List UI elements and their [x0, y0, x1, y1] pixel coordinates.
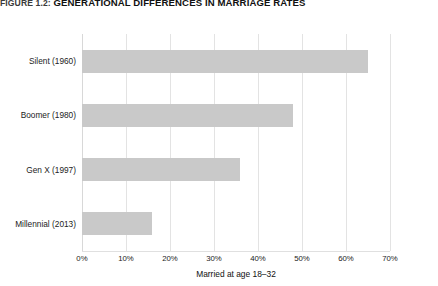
bar-gen-x-1997 — [82, 158, 240, 181]
bar-silent-1960 — [82, 50, 368, 73]
bar-millennial-2013 — [82, 212, 152, 235]
category-label-silent-1960: Silent (1960) — [29, 56, 76, 66]
gridline-70pct — [390, 34, 391, 251]
bar-boomer-1980 — [82, 104, 293, 127]
category-label-gen-x-1997: Gen X (1997) — [26, 165, 76, 175]
bar-chart: Silent (1960)Boomer (1980)Gen X (1997)Mi… — [0, 8, 438, 286]
category-label-boomer-1980: Boomer (1980) — [21, 110, 76, 120]
x-axis-tick-labels: 0%10%20%30%40%50%60%70% — [82, 254, 390, 268]
x-tick-50pct: 50% — [294, 254, 310, 263]
x-tick-40pct: 40% — [250, 254, 266, 263]
figure-title-text: GENERATIONAL DIFFERENCES IN MARRIAGE RAT… — [54, 0, 306, 8]
figure-number: FIGURE 1.2: — [0, 0, 51, 8]
x-tick-30pct: 30% — [206, 254, 222, 263]
x-axis-title: Married at age 18–32 — [82, 269, 390, 279]
x-tick-20pct: 20% — [162, 254, 178, 263]
plot-area — [82, 34, 390, 251]
category-axis-labels: Silent (1960)Boomer (1980)Gen X (1997)Mi… — [0, 34, 76, 251]
category-label-millennial-2013: Millennial (2013) — [15, 219, 76, 229]
x-axis-line — [82, 251, 390, 252]
x-tick-70pct: 70% — [382, 254, 398, 263]
x-tick-0pct: 0% — [76, 254, 87, 263]
x-tick-60pct: 60% — [338, 254, 354, 263]
x-tick-10pct: 10% — [118, 254, 134, 263]
